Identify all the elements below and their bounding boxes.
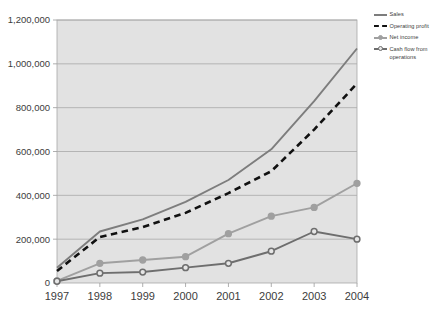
x-axis-tick-label: 2003 bbox=[302, 290, 326, 302]
data-point-marker bbox=[268, 248, 274, 254]
legend-item-operating-profit[interactable]: Operating profit bbox=[374, 22, 437, 31]
x-axis-labels-group: 19971998199920002001200220032004 bbox=[45, 290, 369, 302]
data-point-marker bbox=[354, 180, 360, 186]
data-point-marker bbox=[268, 213, 274, 219]
data-point-marker bbox=[54, 278, 60, 284]
y-axis-tick-label: 400,000 bbox=[16, 190, 50, 201]
y-axis-tick-label: 0 bbox=[45, 277, 50, 288]
data-point-marker bbox=[226, 260, 232, 266]
x-tick-marks-group bbox=[57, 283, 357, 287]
y-axis-tick-label: 1,000,000 bbox=[8, 58, 50, 69]
data-point-marker bbox=[354, 236, 360, 242]
legend-label: Operating profit bbox=[390, 22, 429, 31]
data-point-marker bbox=[97, 270, 103, 276]
x-axis-tick-label: 1999 bbox=[130, 290, 154, 302]
legend-line-swatch-icon bbox=[374, 10, 387, 19]
data-point-marker bbox=[226, 231, 232, 237]
line-chart: 0200,000400,000600,000800,0001,000,0001,… bbox=[0, 0, 437, 314]
legend-label: Sales bbox=[390, 10, 404, 19]
data-point-marker bbox=[183, 254, 189, 260]
x-axis-tick-label: 1997 bbox=[45, 290, 69, 302]
x-axis-tick-label: 2001 bbox=[216, 290, 240, 302]
y-axis-labels-group: 0200,000400,000600,000800,0001,000,0001,… bbox=[8, 14, 50, 288]
y-axis-tick-label: 1,200,000 bbox=[8, 14, 50, 25]
y-axis-tick-label: 200,000 bbox=[16, 234, 50, 245]
legend-item-net-income[interactable]: Net income bbox=[374, 33, 437, 42]
x-axis-tick-label: 1998 bbox=[88, 290, 112, 302]
legend-dashed-line-swatch-icon bbox=[374, 22, 387, 31]
data-point-marker bbox=[183, 265, 189, 271]
x-axis-tick-label: 2000 bbox=[173, 290, 197, 302]
legend-open-marker-swatch-icon bbox=[374, 45, 387, 54]
legend-label: Net income bbox=[390, 33, 419, 42]
data-point-marker bbox=[140, 257, 146, 263]
chart-canvas: 0200,000400,000600,000800,0001,000,0001,… bbox=[0, 0, 437, 314]
data-point-marker bbox=[140, 269, 146, 275]
x-axis-tick-label: 2002 bbox=[259, 290, 283, 302]
y-axis-tick-label: 800,000 bbox=[16, 102, 50, 113]
data-point-marker bbox=[311, 229, 317, 235]
y-axis-tick-label: 600,000 bbox=[16, 146, 50, 157]
legend-item-cash-flow-from-operations[interactable]: Cash flow from operations bbox=[374, 45, 437, 62]
legend-filled-marker-swatch-icon bbox=[374, 33, 387, 42]
chart-legend: Sales Operating profit Net income Cash f… bbox=[374, 10, 437, 64]
legend-label: Cash flow from operations bbox=[390, 45, 437, 62]
data-point-marker bbox=[311, 204, 317, 210]
data-point-marker bbox=[97, 260, 103, 266]
x-axis-tick-label: 2004 bbox=[345, 290, 369, 302]
legend-item-sales[interactable]: Sales bbox=[374, 10, 437, 19]
